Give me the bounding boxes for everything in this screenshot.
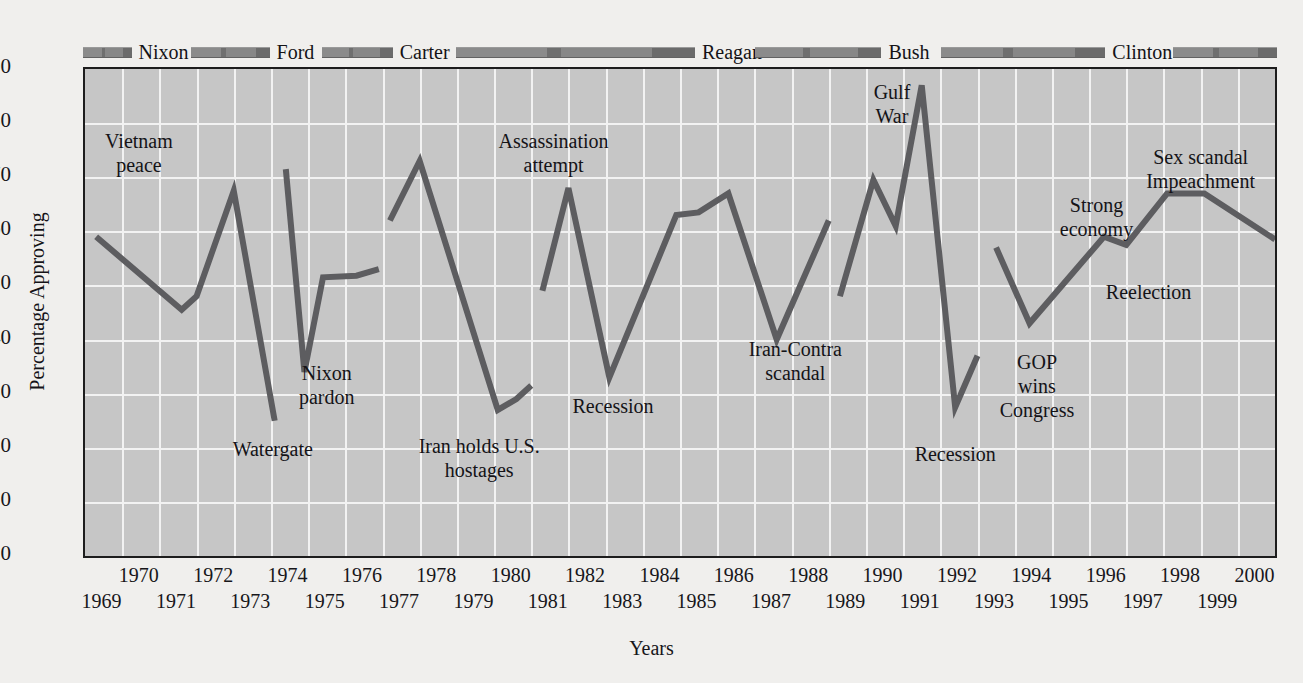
series-line-carter bbox=[390, 161, 531, 410]
x-tick-label-upper: 1974 bbox=[253, 564, 323, 586]
x-tick-label-lower: 1997 bbox=[1108, 590, 1178, 612]
legend-term-bar bbox=[941, 47, 1105, 58]
legend-label-bush: Bush bbox=[881, 42, 936, 62]
approval-chart-figure: NixonFordCarterReaganBushClinton Percent… bbox=[0, 0, 1303, 683]
annotation-assassination-attempt: Assassination attempt bbox=[499, 129, 609, 177]
annotation-gulf-war: Gulf War bbox=[874, 80, 911, 128]
annotation-recession-1982: Recession bbox=[573, 394, 654, 418]
x-tick-label-lower: 1977 bbox=[364, 590, 434, 612]
series-line-bush bbox=[840, 85, 978, 407]
approval-line-series bbox=[85, 69, 1275, 556]
y-tick-label: 70 bbox=[0, 164, 11, 185]
legend-entry-bush: Bush bbox=[755, 40, 937, 64]
annotation-nixon-pardon: Nixon pardon bbox=[299, 361, 355, 409]
legend-label-clinton: Clinton bbox=[1105, 42, 1179, 62]
legend-entry-ford: Ford bbox=[191, 40, 321, 64]
legend-term-bar bbox=[1173, 47, 1277, 58]
y-tick-label: 20 bbox=[0, 435, 11, 456]
series-line-ford bbox=[286, 169, 379, 372]
legend-label-nixon: Nixon bbox=[132, 42, 196, 62]
y-tick-label: 60 bbox=[0, 218, 11, 239]
y-tick-label: 0 bbox=[0, 543, 11, 564]
legend-entry-reagan: Reagan bbox=[456, 40, 769, 64]
x-tick-label-upper: 1976 bbox=[327, 564, 397, 586]
legend-entry-carter: Carter bbox=[322, 40, 457, 64]
annotation-recession-1992: Recession bbox=[915, 442, 996, 466]
x-axis-title: Years bbox=[0, 637, 1303, 660]
x-tick-label-upper: 1982 bbox=[550, 564, 620, 586]
x-tick-label-lower: 1989 bbox=[810, 590, 880, 612]
x-tick-label-upper: 1988 bbox=[773, 564, 843, 586]
legend-entry-nixon: Nixon bbox=[83, 40, 196, 64]
x-tick-label-lower: 1993 bbox=[959, 590, 1029, 612]
legend-entry-clinton: Clinton bbox=[941, 40, 1179, 64]
x-tick-label-lower: 1979 bbox=[438, 590, 508, 612]
legend-label-carter: Carter bbox=[393, 42, 457, 62]
x-tick-label-upper: 1978 bbox=[401, 564, 471, 586]
annotation-gop-wins-congress: GOP wins Congress bbox=[1000, 350, 1074, 422]
x-tick-label-lower: 1969 bbox=[67, 590, 137, 612]
annotation-sex-scandal-impeachment: Sex scandal Impeachment bbox=[1146, 145, 1255, 193]
x-tick-label-upper: 1970 bbox=[104, 564, 174, 586]
legend-term-bar bbox=[755, 47, 882, 58]
x-tick-label-lower: 1983 bbox=[587, 590, 657, 612]
legend-term-bar bbox=[83, 47, 132, 58]
president-legend: NixonFordCarterReaganBushClinton bbox=[83, 40, 1277, 64]
annotation-iran-hostages: Iran holds U.S. hostages bbox=[419, 434, 540, 482]
annotation-vietnam-peace: Vietnam peace bbox=[105, 129, 173, 177]
series-line-nixon bbox=[96, 191, 275, 421]
legend-term-bar bbox=[456, 47, 695, 58]
x-tick-label-upper: 1992 bbox=[922, 564, 992, 586]
y-tick-label: 40 bbox=[0, 327, 11, 348]
x-tick-label-lower: 1999 bbox=[1182, 590, 1252, 612]
y-tick-label: 80 bbox=[0, 110, 11, 131]
x-tick-label-lower: 1971 bbox=[141, 590, 211, 612]
y-tick-label: 10 bbox=[0, 489, 11, 510]
x-tick-label-lower: 1995 bbox=[1033, 590, 1103, 612]
x-tick-label-upper: 1972 bbox=[178, 564, 248, 586]
annotation-watergate: Watergate bbox=[233, 437, 313, 461]
x-tick-label-upper: 1984 bbox=[624, 564, 694, 586]
x-tick-label-lower: 1975 bbox=[290, 590, 360, 612]
y-tick-label: 30 bbox=[0, 381, 11, 402]
annotation-strong-economy: Strong economy bbox=[1060, 193, 1133, 241]
x-tick-label-lower: 1991 bbox=[885, 590, 955, 612]
x-tick-label-lower: 1981 bbox=[513, 590, 583, 612]
x-tick-label-upper: 1994 bbox=[996, 564, 1066, 586]
x-tick-label-lower: 1987 bbox=[736, 590, 806, 612]
annotation-reelection: Reelection bbox=[1106, 280, 1192, 304]
x-tick-label-upper: 1996 bbox=[1071, 564, 1141, 586]
annotation-iran-contra: Iran-Contra scandal bbox=[749, 337, 842, 385]
legend-label-ford: Ford bbox=[270, 42, 322, 62]
x-tick-label-upper: 1998 bbox=[1145, 564, 1215, 586]
plot-area: Vietnam peaceWatergateNixon pardonIran h… bbox=[83, 67, 1277, 558]
x-tick-label-upper: 1986 bbox=[699, 564, 769, 586]
y-tick-label: 90 bbox=[0, 56, 11, 77]
legend-term-bar bbox=[191, 47, 269, 58]
legend-entry bbox=[1173, 40, 1277, 64]
x-tick-label-lower: 1985 bbox=[662, 590, 732, 612]
x-tick-label-lower: 1973 bbox=[215, 590, 285, 612]
legend-term-bar bbox=[322, 47, 393, 58]
x-tick-label-upper: 1980 bbox=[476, 564, 546, 586]
x-axis-ticks: 1970197219741976197819801982198419861988… bbox=[83, 560, 1277, 630]
x-tick-label-upper: 1990 bbox=[848, 564, 918, 586]
y-tick-label: 50 bbox=[0, 272, 11, 293]
x-tick-label-upper: 2000 bbox=[1219, 564, 1289, 586]
